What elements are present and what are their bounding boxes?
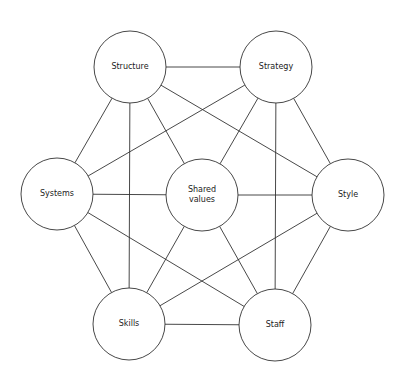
- node-label: Strategy: [259, 62, 293, 72]
- edge-strategy-style: [294, 98, 331, 163]
- edge-systems-skills: [74, 225, 111, 292]
- edge-style-staff: [293, 226, 331, 293]
- node-strategy: Strategy: [240, 31, 312, 103]
- edge-skills-staff: [165, 324, 239, 325]
- node-shared: Shared values: [166, 159, 238, 231]
- node-label: Shared values: [182, 185, 222, 206]
- edge-structure-skills: [129, 103, 130, 288]
- node-systems: Systems: [21, 158, 93, 230]
- node-skills: Skills: [93, 288, 165, 360]
- node-label: Skills: [119, 319, 140, 329]
- node-label: Staff: [266, 320, 285, 330]
- node-structure: Structure: [94, 31, 166, 103]
- node-label: Systems: [40, 189, 74, 199]
- edge-systems-shared: [93, 194, 166, 195]
- edge-strategy-shared: [220, 98, 258, 164]
- edge-shared-skills: [147, 226, 185, 292]
- edge-structure-systems: [75, 98, 112, 163]
- node-staff: Staff: [239, 289, 311, 361]
- node-label: Structure: [111, 62, 148, 72]
- edge-strategy-staff: [275, 103, 276, 289]
- node-style: Style: [312, 159, 384, 231]
- node-label: Style: [338, 190, 358, 200]
